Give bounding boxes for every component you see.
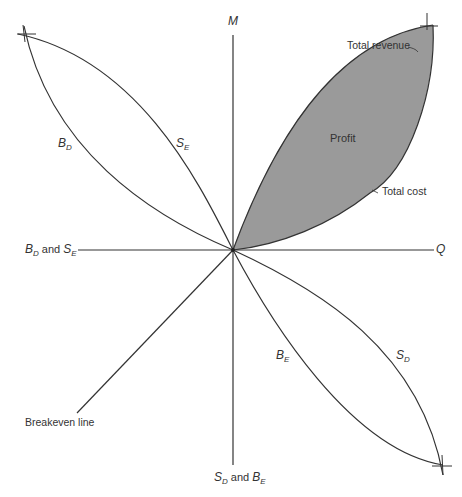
be-curve — [233, 250, 443, 465]
total-revenue-label: Total revenue — [347, 39, 410, 51]
total-cost-label: Total cost — [382, 185, 426, 197]
sd-curve — [233, 250, 443, 475]
label-se: SE — [176, 136, 189, 152]
se-curve — [18, 34, 233, 250]
label-main: S — [396, 348, 404, 362]
label-sub: D — [404, 355, 410, 364]
label-main: S — [176, 136, 184, 150]
label-main: B — [276, 348, 284, 362]
axis-label-bottom: SD and BE — [214, 470, 266, 486]
label-sd: SD — [396, 348, 410, 364]
label-bd: BD — [58, 136, 72, 152]
label-sub: E — [284, 355, 289, 364]
profit-label: Profit — [330, 132, 356, 144]
axis-label-q: Q — [436, 242, 445, 256]
label-main: B — [25, 242, 33, 256]
label-main: S — [214, 470, 222, 484]
label-main: B — [58, 136, 66, 150]
bd-curve — [24, 26, 233, 250]
axis-label-m: M — [228, 14, 238, 28]
label-joiner: and — [231, 471, 249, 483]
label-sub: D — [33, 249, 39, 258]
label-joiner: and — [42, 243, 60, 255]
label-be: BE — [276, 348, 289, 364]
axis-label-left: BD and SE — [25, 242, 77, 258]
breakeven-line — [77, 250, 233, 413]
origin-point — [231, 248, 235, 252]
label-sub2: E — [71, 249, 76, 258]
breakeven-line-label: Breakeven line — [25, 416, 94, 428]
label-sub: E — [184, 143, 189, 152]
label-sub: D — [222, 477, 228, 486]
label-sub2: E — [260, 477, 265, 486]
label-sub: D — [66, 143, 72, 152]
